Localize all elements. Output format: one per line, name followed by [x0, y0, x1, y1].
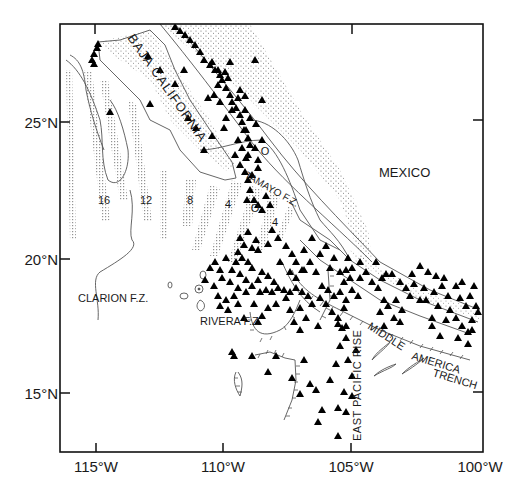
earthquake-triangle-icon	[228, 266, 236, 273]
earthquake-triangle-icon	[348, 286, 356, 293]
earthquake-triangle-icon	[256, 288, 264, 295]
earthquake-triangle-icon	[342, 296, 350, 303]
earthquake-triangle-icon	[458, 278, 466, 285]
earthquake-triangle-icon	[292, 284, 300, 291]
earthquake-triangle-icon	[438, 282, 446, 289]
earthquake-triangle-icon	[368, 278, 376, 285]
earthquake-triangle-icon	[346, 274, 354, 281]
earthquake-triangle-icon	[340, 278, 348, 285]
anomaly-age-label: O	[251, 202, 260, 214]
earthquake-triangle-icon	[201, 276, 209, 283]
label-clarion-fz: CLARION F.Z.	[78, 292, 148, 304]
earthquake-triangle-icon	[206, 264, 214, 271]
earthquake-triangle-icon	[90, 50, 98, 57]
earthquake-triangle-icon	[242, 288, 250, 295]
earthquake-triangle-icon	[336, 288, 344, 295]
earthquake-triangle-icon	[230, 292, 238, 299]
earthquake-triangle-icon	[226, 278, 234, 285]
earthquake-triangle-icon	[332, 360, 340, 367]
earthquake-triangle-icon	[228, 98, 236, 105]
earthquake-triangle-icon	[286, 306, 294, 313]
earthquake-triangle-icon	[210, 91, 218, 98]
earthquake-triangle-icon	[238, 118, 246, 125]
anomaly-age-label: O	[261, 145, 270, 157]
x-tick-label: 100°W	[457, 458, 503, 475]
earthquake-triangle-icon	[340, 388, 348, 395]
earthquake-triangle-icon	[380, 296, 388, 303]
earthquake-triangle-icon	[244, 134, 252, 141]
y-tick-label: 20°N	[24, 251, 58, 268]
earthquake-triangle-icon	[302, 314, 310, 321]
earthquake-triangle-icon	[250, 300, 258, 307]
earthquake-triangle-icon	[384, 302, 392, 309]
earthquake-triangle-icon	[228, 348, 236, 355]
earthquake-triangle-icon	[241, 106, 249, 113]
earthquake-triangle-icon	[222, 296, 230, 303]
anomaly-age-label: 8	[187, 194, 193, 206]
earthquake-triangle-icon	[454, 334, 462, 341]
earthquake-triangle-icon	[436, 332, 444, 339]
earthquake-triangle-icon	[300, 356, 308, 363]
earthquake-triangle-icon	[234, 284, 242, 291]
anomaly-age-label: 12	[140, 194, 152, 206]
earthquake-triangle-icon	[306, 380, 314, 387]
earthquake-triangle-icon	[220, 124, 228, 131]
earthquake-triangle-icon	[408, 270, 416, 277]
earthquake-triangle-icon	[292, 258, 300, 265]
earthquake-triangle-icon	[254, 156, 262, 163]
earthquake-triangle-icon	[248, 282, 256, 289]
earthquake-triangle-icon	[258, 268, 266, 275]
earthquake-triangle-icon	[146, 100, 154, 107]
label-rivera-fz: RIVERA F.Z.	[200, 315, 262, 327]
earthquake-triangle-icon	[248, 264, 256, 271]
earthquake-triangle-icon	[428, 322, 436, 329]
earthquake-triangle-icon	[324, 286, 332, 293]
earthquake-triangle-icon	[280, 286, 288, 293]
earthquake-triangle-icon	[211, 258, 219, 265]
earthquake-triangle-icon	[272, 300, 280, 307]
earthquake-triangle-icon	[234, 94, 242, 101]
earthquake-triangle-icon	[210, 282, 218, 289]
earthquake-triangle-icon	[258, 136, 266, 143]
earthquake-triangle-icon	[322, 242, 330, 249]
y-tick-label: 15°N	[24, 385, 58, 402]
earthquake-triangle-icon	[216, 302, 224, 309]
earthquake-triangle-icon	[470, 282, 478, 289]
earthquake-triangle-icon	[282, 294, 290, 301]
earthquake-triangle-icon	[472, 302, 480, 309]
earthquake-triangle-icon	[264, 272, 272, 279]
earthquake-triangle-icon	[416, 262, 424, 269]
earthquake-triangle-icon	[334, 320, 342, 327]
earthquake-triangle-icon	[236, 161, 244, 168]
y-tick-label: 25°N	[24, 114, 58, 131]
earthquake-triangle-icon	[316, 250, 324, 257]
epicenter-map: 115°W 110°W 105°W 100°W 25°N 20°N 15°N B…	[0, 0, 530, 490]
earthquake-triangle-icon	[231, 151, 239, 158]
x-axis-labels: 115°W 110°W 105°W 100°W	[74, 458, 503, 475]
anomaly-age-label: 4	[272, 216, 278, 228]
y-axis-labels: 25°N 20°N 15°N	[24, 114, 58, 402]
earthquake-triangle-icon	[428, 314, 436, 321]
earthquake-triangle-icon	[296, 326, 304, 333]
label-mexico: MEXICO	[379, 165, 430, 180]
earthquake-triangle-icon	[466, 292, 474, 299]
earthquake-triangle-icon	[318, 406, 326, 413]
earthquake-triangle-icon	[334, 432, 342, 439]
earthquake-triangle-icon	[244, 258, 252, 265]
earthquake-triangle-icon	[312, 386, 320, 393]
earthquake-triangle-icon	[440, 274, 448, 281]
earthquake-triangle-icon	[430, 288, 438, 295]
earthquake-triangle-icon	[292, 274, 300, 281]
earthquake-triangle-icon	[180, 66, 188, 73]
earthquake-triangle-icon	[314, 418, 322, 425]
earthquake-triangle-icon	[282, 242, 290, 249]
earthquake-triangle-icon	[248, 244, 256, 251]
earthquake-triangle-icon	[392, 296, 400, 303]
earthquake-triangle-icon	[306, 258, 314, 265]
earthquake-triangle-icon	[456, 294, 464, 301]
earthquake-triangle-icon	[444, 292, 452, 299]
earthquake-triangle-icon	[214, 292, 222, 299]
earthquake-triangle-icon	[356, 274, 364, 281]
x-tick-label: 110°W	[201, 458, 246, 475]
earthquake-triangle-icon	[326, 376, 334, 383]
